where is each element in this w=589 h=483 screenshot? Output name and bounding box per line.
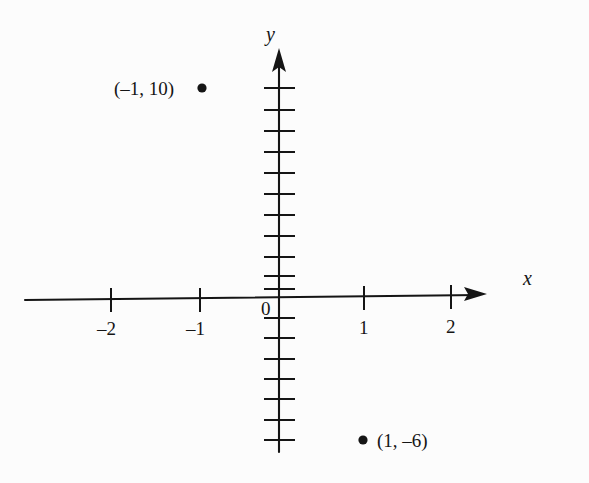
x-tick-label-neg1: –1 (186, 319, 205, 338)
x-tick-label-neg2: –2 (97, 319, 116, 338)
x-axis-label: x (523, 268, 532, 288)
x-tick-label-pos1: 1 (359, 318, 369, 337)
x-tick-label-pos2: 2 (446, 317, 456, 336)
origin-label: 0 (261, 299, 271, 318)
x-axis-arrowhead (464, 287, 487, 301)
x-axis-line (25, 295, 479, 300)
point-label-b: (1, –6) (377, 431, 428, 450)
y-axis-label: y (266, 24, 275, 44)
point-label-a: (–1, 10) (114, 79, 174, 98)
data-point-b (358, 435, 367, 444)
axes-and-points-graphic (0, 0, 589, 483)
data-point-a (197, 83, 206, 92)
coordinate-plane-figure: x y 0 –2 –1 1 2 (–1, 10) (1, –6) (0, 0, 589, 483)
